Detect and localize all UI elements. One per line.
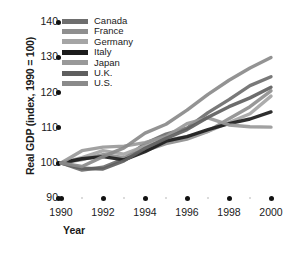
x-tick-dot: [101, 196, 106, 201]
x-tick-dot: [143, 196, 148, 201]
x-tick-dot: [269, 196, 274, 201]
x-tick-dot: [227, 196, 232, 201]
legend: CanadaFranceGermanyItalyJapanU.K.U.S.: [62, 16, 133, 89]
legend-swatch: [62, 29, 88, 34]
legend-swatch: [62, 50, 88, 55]
legend-label: U.S.: [94, 78, 112, 88]
legend-swatch: [62, 81, 88, 86]
legend-swatch: [62, 39, 88, 44]
legend-item: U.S.: [62, 78, 133, 88]
x-tick-label: 1996: [167, 206, 207, 218]
legend-item: Italy: [62, 47, 133, 57]
x-tick-label: 1994: [125, 206, 165, 218]
legend-swatch: [62, 19, 88, 24]
x-axis-title: Year: [63, 224, 85, 236]
x-tick-label: 1990: [41, 206, 81, 218]
series-line-germany: [61, 96, 271, 163]
legend-swatch: [62, 60, 88, 65]
x-tick-dot: [59, 196, 64, 201]
x-tick-label: 1992: [83, 206, 123, 218]
x-tick-dot: [185, 196, 190, 201]
x-tick-label: 2000: [251, 206, 286, 218]
chart-container: Real GDP (index, 1990 = 100) 14013012011…: [0, 0, 286, 267]
plot-area: [0, 0, 286, 267]
legend-swatch: [62, 71, 88, 76]
x-tick-label: 1998: [209, 206, 249, 218]
